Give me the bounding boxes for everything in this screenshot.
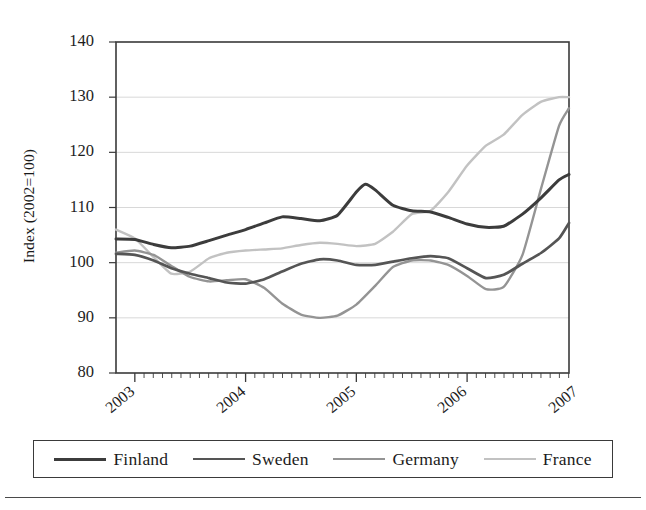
legend-line-swatch — [333, 458, 385, 460]
legend-label: France — [543, 449, 592, 470]
bottom-divider — [5, 497, 641, 498]
chart-legend: FinlandSwedenGermanyFrance — [33, 440, 613, 478]
legend-label: Sweden — [252, 449, 309, 470]
plot-area — [0, 0, 646, 510]
series-line-germany — [116, 108, 569, 318]
legend-line-swatch — [54, 458, 106, 461]
legend-label: Germany — [392, 449, 459, 470]
legend-entry-finland[interactable]: Finland — [54, 449, 168, 470]
line-chart-figure: Index (2002=100) 1401301201101009080 200… — [0, 0, 646, 510]
legend-line-swatch — [484, 458, 536, 460]
series-line-finland — [116, 174, 569, 247]
legend-entry-germany[interactable]: Germany — [333, 449, 459, 470]
legend-label: Finland — [113, 449, 168, 470]
legend-line-swatch — [193, 458, 245, 460]
legend-entry-france[interactable]: France — [484, 449, 592, 470]
legend-entry-sweden[interactable]: Sweden — [193, 449, 309, 470]
